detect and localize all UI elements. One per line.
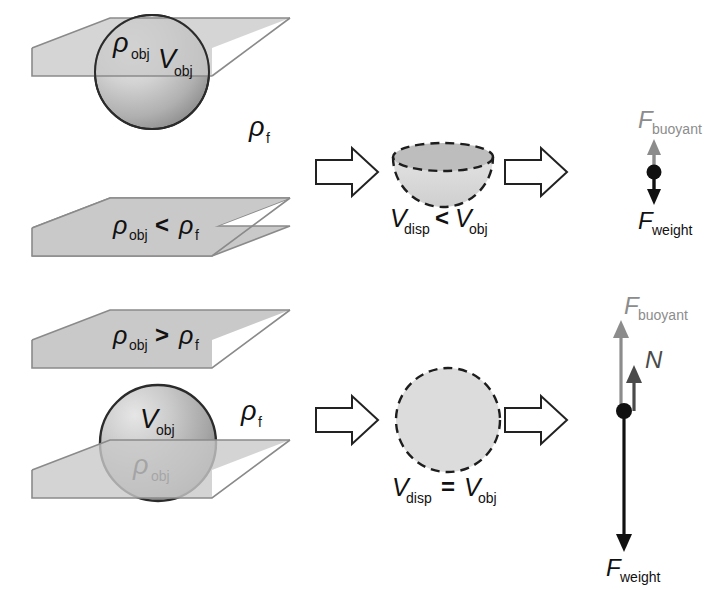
float-force-diagram: F buoyant F weight [638, 106, 702, 238]
sink-condition-rho-f-sub: f [195, 337, 199, 353]
float-displaced-hemisphere [393, 143, 493, 207]
float-sphere-rho-sub: obj [131, 46, 150, 62]
float-disp-V-obj-sub: obj [469, 221, 488, 237]
block-arrow-right [505, 396, 567, 444]
float-condition-operator: < [155, 211, 169, 238]
float-disp-V-sub: disp [404, 221, 430, 237]
float-sphere-volume-sub: obj [174, 63, 193, 79]
sink-condition-rho-obj-sub: obj [129, 337, 148, 353]
figure-canvas: ρ obj < ρ f ρ obj V obj ρ f [0, 0, 719, 590]
sink-fluid-label: ρ f [240, 396, 262, 430]
force-origin-dot [616, 403, 632, 419]
sink-N-symbol: N [645, 346, 663, 373]
block-arrow-right [505, 148, 567, 196]
force-arrow-N [626, 365, 642, 411]
sink-condition-rho-obj: ρ [112, 321, 127, 349]
float-disp-operator: < [435, 204, 449, 231]
buoyancy-figure: ρ obj < ρ f ρ obj V obj ρ f [0, 0, 719, 590]
float-F-buoyant-sub: buoyant [652, 121, 702, 137]
sink-disp-operator: = [441, 473, 455, 500]
sink-condition-rho-f: ρ [178, 321, 193, 349]
block-arrow-right [316, 396, 378, 444]
sinking-object-scene: ρ obj > ρ f ρ f V obj ρ obj [32, 292, 688, 585]
sink-sphere-volume-sub: obj [156, 422, 175, 438]
float-condition-rho-f: ρ [178, 211, 193, 239]
sink-lower-plane [32, 440, 290, 498]
sink-F-weight-sub: weight [619, 569, 661, 585]
sink-displaced-sphere [396, 368, 500, 472]
sink-force-diagram: F buoyant N F weight [606, 292, 688, 585]
float-fluid-rho: ρ [248, 112, 264, 142]
sink-fluid-rho-sub: f [258, 414, 262, 430]
sink-F-buoyant-sub: buoyant [638, 307, 688, 323]
force-origin-dot [647, 165, 662, 180]
sink-fluid-rho: ρ [240, 396, 256, 426]
float-displaced-label: V disp < V obj [390, 204, 488, 237]
float-condition-rho-obj: ρ [112, 211, 127, 239]
force-arrow-F-weight [616, 411, 632, 552]
float-condition-rho-obj-sub: obj [129, 227, 148, 243]
force-arrow-F-buoyant [613, 320, 629, 411]
float-condition-rho-f-sub: f [195, 227, 199, 243]
float-sphere-rho: ρ [112, 28, 128, 58]
sink-disp-V-sub: disp [406, 490, 432, 506]
sink-disp-V-obj-sub: obj [478, 490, 497, 506]
float-fluid-rho-sub: f [266, 130, 270, 146]
float-F-weight-sub: weight [651, 222, 693, 238]
sink-condition-operator: > [155, 321, 169, 348]
sink-displaced-label: V disp = V obj [392, 473, 497, 506]
float-fluid-label: ρ f [248, 112, 270, 146]
floating-object-scene: ρ obj < ρ f ρ obj V obj ρ f [32, 15, 702, 258]
block-arrow-right [316, 148, 378, 196]
